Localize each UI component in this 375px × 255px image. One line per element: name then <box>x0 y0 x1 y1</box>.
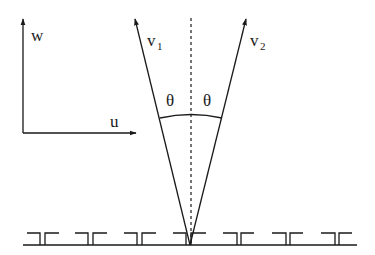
coordinate-axes: w u <box>23 19 136 133</box>
theta-right-label: θ <box>203 91 211 110</box>
v1-label: v <box>147 31 156 50</box>
vector-v2: v 2 <box>190 19 266 245</box>
u-axis-label: u <box>110 112 119 131</box>
comb-tooth <box>124 233 156 245</box>
v2-subscript: 2 <box>260 40 266 52</box>
comb-tooth <box>321 233 352 245</box>
v2-arrow <box>190 19 246 245</box>
vector-diagram: w u v 1 v 2 θ θ <box>0 0 375 255</box>
comb-tooth <box>75 233 107 245</box>
w-axis-label: w <box>31 26 44 45</box>
comb-tooth <box>223 233 254 245</box>
comb-tooth <box>272 233 303 245</box>
v2-label: v <box>250 31 259 50</box>
v1-subscript: 1 <box>157 40 163 52</box>
v1-arrow <box>135 19 190 245</box>
theta-left-label: θ <box>166 91 174 110</box>
vector-v1: v 1 <box>135 19 190 245</box>
comb-tooth <box>27 233 59 245</box>
